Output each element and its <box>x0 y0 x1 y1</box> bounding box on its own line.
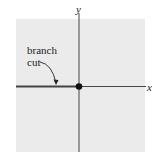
origin-dot <box>76 83 83 90</box>
complex-plane-diagram: y x branch cut <box>0 0 156 163</box>
y-axis-label: y <box>75 3 81 15</box>
annotation-line2: cut <box>27 56 40 68</box>
x-axis-label: x <box>146 81 152 93</box>
annotation-line1: branch <box>27 44 57 56</box>
